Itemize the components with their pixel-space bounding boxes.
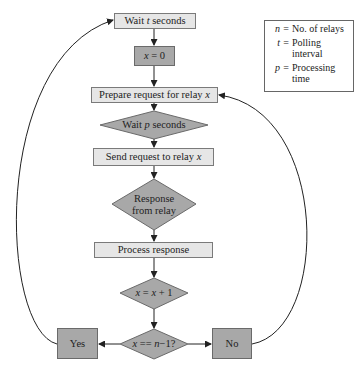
legend-symbol: n: [268, 23, 280, 34]
node-text-line1: Response: [134, 193, 174, 205]
legend-text: Processing time: [292, 62, 350, 84]
legend-text: Polling interval: [292, 37, 350, 59]
legend-equals: =: [280, 37, 292, 59]
response-from-relay-label: Response from relay: [112, 192, 196, 218]
process-response-box: Process response: [94, 242, 213, 258]
node-text: No: [226, 338, 239, 350]
send-request-box: Send request to relay x: [93, 148, 214, 166]
wait-p-seconds-label: Wait p seconds: [100, 119, 208, 131]
legend-item-p: p = Processing time: [268, 62, 350, 84]
legend-equals: =: [280, 62, 292, 84]
legend-equals: =: [280, 23, 292, 34]
prepare-request-box: Prepare request for relay x: [91, 87, 218, 103]
node-text: seconds: [150, 15, 186, 27]
node-text: −1?: [160, 338, 176, 350]
operator: =: [140, 287, 151, 299]
node-text-line2: from relay: [132, 205, 176, 217]
variable-x: x: [197, 151, 202, 163]
node-text: Process response: [118, 244, 189, 256]
variable-x: x: [205, 89, 210, 101]
legend-symbol: p: [268, 62, 280, 84]
operator: ==: [137, 338, 154, 350]
legend-item-n: n = No. of relays: [268, 23, 350, 34]
node-text: Wait: [125, 15, 147, 27]
wait-t-seconds-box: Wait t seconds: [114, 13, 196, 29]
node-text: = 0: [149, 50, 165, 62]
node-text: Send request to relay: [106, 151, 197, 163]
legend-symbol: t: [268, 37, 280, 59]
node-text: seconds: [150, 119, 186, 131]
x-equals-zero-box: x = 0: [134, 46, 175, 66]
edge-no-to-prepare: [219, 95, 307, 344]
edge-yes-to-wait-t: [16, 20, 113, 344]
node-text: + 1: [156, 287, 172, 299]
node-text: Yes: [70, 338, 85, 350]
legend-text: No. of relays: [292, 23, 350, 34]
check-last-relay-label: x == n−1?: [120, 338, 188, 350]
yes-box: Yes: [57, 328, 98, 359]
no-box: No: [212, 328, 252, 359]
node-text: Prepare request for relay: [99, 89, 205, 101]
node-text: Wait: [122, 119, 144, 131]
increment-x-label: x = x + 1: [120, 287, 188, 299]
legend-item-t: t = Polling interval: [268, 37, 350, 59]
legend: n = No. of relays t = Polling interval p…: [264, 20, 354, 92]
